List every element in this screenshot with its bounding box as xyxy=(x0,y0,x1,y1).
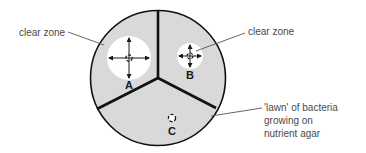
agar-plate-diagram: A B C clear zone clear zone 'lawn' of ba… xyxy=(0,0,366,153)
section-letter-a: A xyxy=(125,79,133,91)
label-lawn-line-3: nutrient agar xyxy=(264,128,321,139)
antibiotic-disc-c-icon xyxy=(168,114,175,121)
label-clear-zone-left: clear zone xyxy=(19,27,66,38)
label-lawn-line-2: growing on xyxy=(264,115,313,126)
label-clear-zone-right: clear zone xyxy=(248,26,295,37)
section-letter-b: B xyxy=(186,69,194,81)
label-lawn-line-1: 'lawn' of bacteria xyxy=(264,102,338,113)
section-letter-c: C xyxy=(168,125,176,137)
